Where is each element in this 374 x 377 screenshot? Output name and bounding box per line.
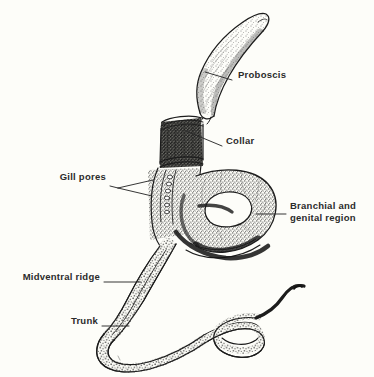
label-trunk: Trunk (0, 315, 98, 327)
label-branchial-line-1: Branchial and (290, 200, 356, 211)
label-collar: Collar (226, 135, 254, 147)
trunk-part (97, 244, 304, 372)
label-midventral-ridge: Midventral ridge (0, 271, 100, 283)
collar-part (155, 115, 210, 173)
label-gill-pores: Gill pores (0, 171, 106, 183)
leader-gill-pores (110, 180, 153, 196)
label-proboscis: Proboscis (238, 69, 286, 81)
proboscis-part (185, 5, 285, 130)
label-branchial-line-2: genital region (290, 212, 356, 223)
acorn-worm-figure: Proboscis Collar Gill pores Branchial an… (0, 0, 374, 377)
label-branchial-and-genital-region: Branchial andgenital region (290, 200, 356, 223)
